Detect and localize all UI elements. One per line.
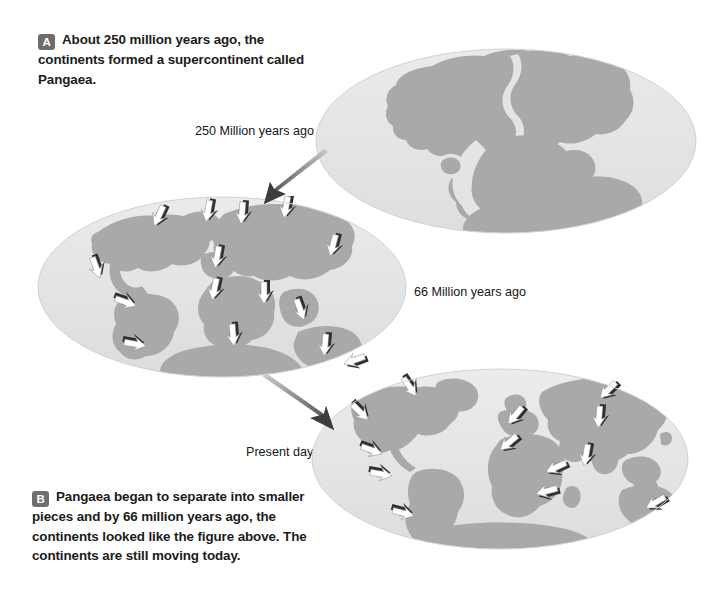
era-label-present-day: Present day: [246, 445, 313, 459]
caption-a-text: About 250 million years ago, the contine…: [38, 32, 304, 87]
era-label-cretaceous: 66 Million years ago: [414, 285, 526, 299]
caption-b-badge: B: [32, 491, 49, 507]
cretaceous-globe: [36, 196, 408, 378]
era-label-pangaea: 250 Million years ago: [195, 124, 314, 138]
caption-b: BPangaea began to separate into smaller …: [32, 487, 332, 566]
caption-a: AAbout 250 million years ago, the contin…: [38, 30, 306, 89]
arrow-cretaceous-to-present: [256, 372, 371, 442]
caption-a-badge: A: [38, 34, 55, 50]
caption-b-text: Pangaea began to separate into smaller p…: [32, 489, 307, 563]
arrow-pangaea-to-cretaceous: [224, 148, 334, 222]
figure-canvas: AAbout 250 million years ago, the contin…: [0, 0, 714, 599]
